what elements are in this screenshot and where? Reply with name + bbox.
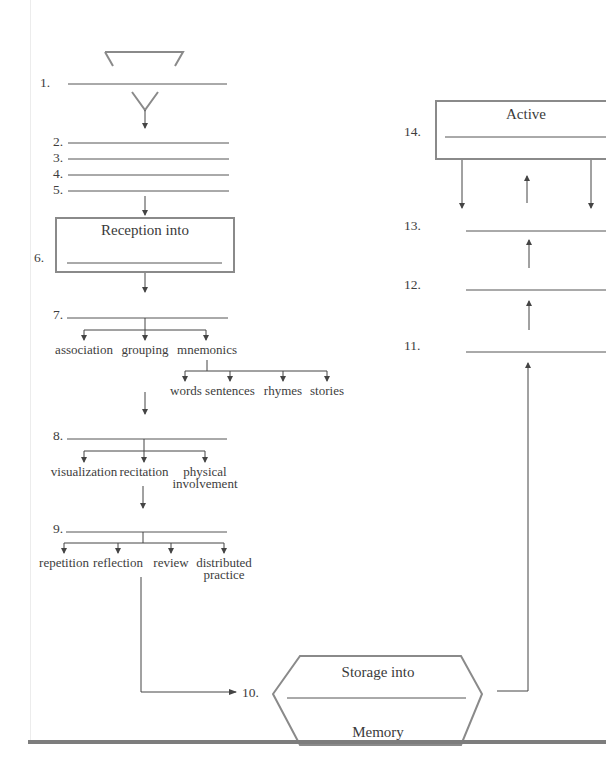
memory-flowchart: 1. 2. 3. 4. 5. 6. 7. 8. 9. 10. 11. 12. 1…: [0, 0, 606, 769]
label-practice: practice: [203, 568, 244, 582]
blank-13-label: 13.: [404, 219, 421, 233]
label-repetition: repetition: [39, 556, 89, 570]
label-mnemonics: mnemonics: [177, 343, 237, 357]
active-box-title: Active: [506, 106, 546, 122]
storage-memory-label: Memory: [352, 724, 404, 740]
label-reflection: reflection: [93, 556, 143, 570]
label-review: review: [153, 556, 188, 570]
label-stories: stories: [310, 384, 344, 398]
label-visualization: visualization: [51, 465, 117, 479]
label-association: association: [55, 343, 113, 357]
blank-1-label: 1.: [40, 76, 50, 90]
blank-2-label: 2.: [53, 135, 63, 149]
blank-6-label: 6.: [34, 251, 44, 265]
reception-box-title: Reception into: [101, 222, 189, 238]
blank-11-label: 11.: [404, 339, 420, 353]
blank-4-label: 4.: [53, 167, 63, 181]
blank-7-label: 7.: [53, 308, 63, 322]
funnel-top-shape: [105, 52, 183, 66]
label-sentences: sentences: [205, 384, 255, 398]
page-bottom-rule: [28, 740, 606, 744]
label-grouping: grouping: [122, 343, 169, 357]
label-words: words: [170, 384, 202, 398]
blank-3-label: 3.: [53, 151, 63, 165]
storage-title: Storage into: [342, 664, 415, 680]
blank-14-label: 14.: [404, 125, 421, 139]
label-involvement: involvement: [173, 477, 238, 491]
blank-10-label: 10.: [242, 686, 259, 700]
blank-8-label: 8.: [53, 429, 63, 443]
label-recitation: recitation: [119, 465, 168, 479]
label-rhymes: rhymes: [264, 384, 302, 398]
blank-5-label: 5.: [53, 183, 63, 197]
blank-12-label: 12.: [404, 278, 421, 292]
blank-9-label: 9.: [53, 522, 63, 536]
